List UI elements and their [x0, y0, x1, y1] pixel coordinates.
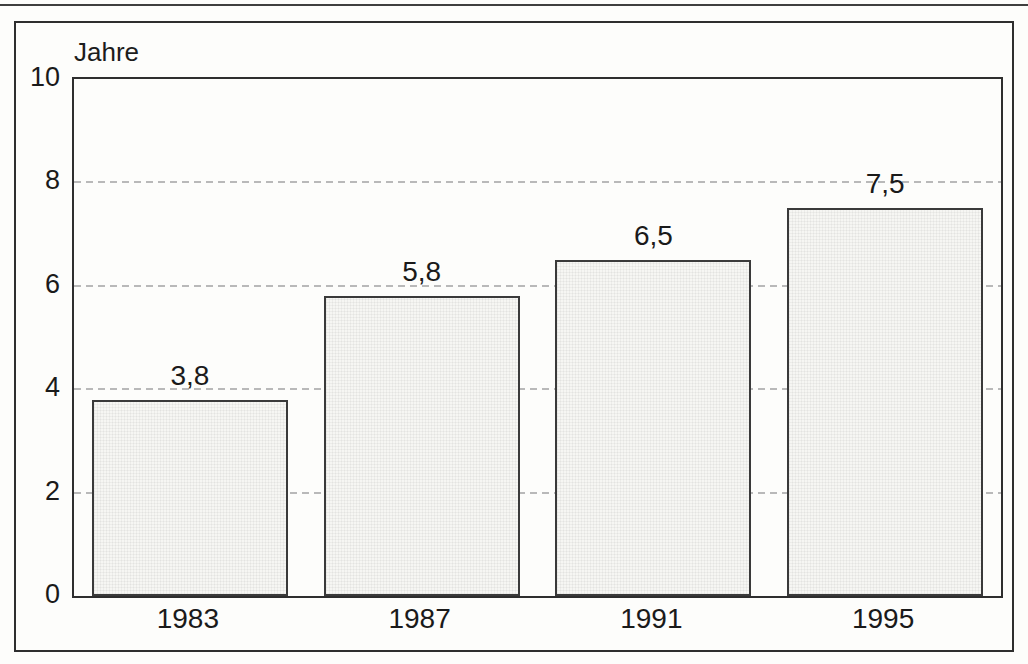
bar-1983 [92, 400, 288, 596]
x-tick-label-1991: 1991 [591, 603, 711, 635]
plot-area: 3,85,86,57,5 [72, 77, 1003, 598]
y-tick-label: 10 [16, 61, 60, 93]
chart-canvas: Jahre 3,85,86,57,5 0246810 1983198719911… [0, 0, 1028, 664]
y-axis-title: Jahre [74, 37, 139, 67]
y-tick-label: 2 [16, 475, 60, 507]
y-tick-label: 8 [16, 164, 60, 196]
bar-1995 [787, 208, 983, 596]
chart-frame: Jahre 3,85,86,57,5 0246810 1983198719911… [14, 21, 1014, 652]
x-tick-label-1995: 1995 [823, 603, 943, 635]
bar-value-label: 3,8 [130, 360, 250, 392]
x-tick-label-1983: 1983 [128, 603, 248, 635]
bar-1991 [555, 260, 751, 596]
bar-value-label: 7,5 [825, 168, 945, 200]
bar-value-label: 5,8 [362, 256, 482, 288]
bar-value-label: 6,5 [593, 220, 713, 252]
y-tick-label: 0 [16, 578, 60, 610]
y-tick-label: 4 [16, 371, 60, 403]
page-top-rule [0, 4, 1028, 6]
y-tick-label: 6 [16, 268, 60, 300]
x-tick-label-1987: 1987 [360, 603, 480, 635]
bar-1987 [324, 296, 520, 596]
